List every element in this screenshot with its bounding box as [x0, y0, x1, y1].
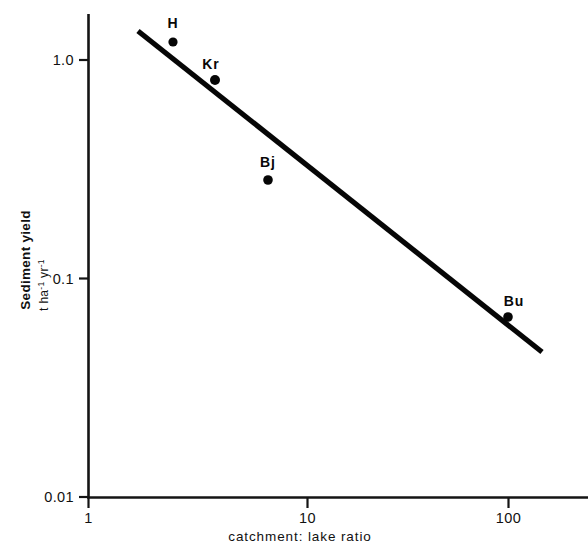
y-units-exponent-2: -1 [36, 259, 46, 267]
data-point-Bj [263, 175, 273, 185]
y-axis-title: Sediment yield [18, 210, 33, 309]
y-axis-units: t ha-1 yr-1 [36, 259, 51, 311]
regression-line [138, 31, 542, 352]
data-point-Bu [503, 312, 513, 322]
data-point-Kr [210, 75, 220, 85]
y-tick-label-0.1: 0.1 [53, 271, 74, 287]
data-point-label-Bj: Bj [260, 154, 276, 170]
y-tick-label-1.0: 1.0 [53, 52, 74, 68]
chart-figure: 1.0 0.1 0.01 1 10 100 H Kr Bj Bu catchme… [0, 0, 588, 548]
y-units-exponent-1: -1 [36, 282, 46, 290]
data-point-label-Bu: Bu [504, 293, 524, 309]
x-axis-title: catchment: lake ratio [228, 529, 371, 544]
y-units-part-t-ha: t ha [37, 290, 51, 311]
x-tick-label-100: 100 [496, 510, 521, 526]
x-tick-label-10: 10 [299, 510, 316, 526]
y-tick-label-0.01: 0.01 [44, 489, 74, 505]
data-point-H [168, 37, 177, 46]
data-point-label-H: H [167, 15, 178, 31]
scatter-plot-svg: 1.0 0.1 0.01 1 10 100 H Kr Bj Bu catchme… [0, 0, 588, 548]
data-point-label-Kr: Kr [202, 56, 219, 72]
x-tick-label-1: 1 [84, 510, 92, 526]
y-units-part-yr: yr [37, 267, 51, 281]
